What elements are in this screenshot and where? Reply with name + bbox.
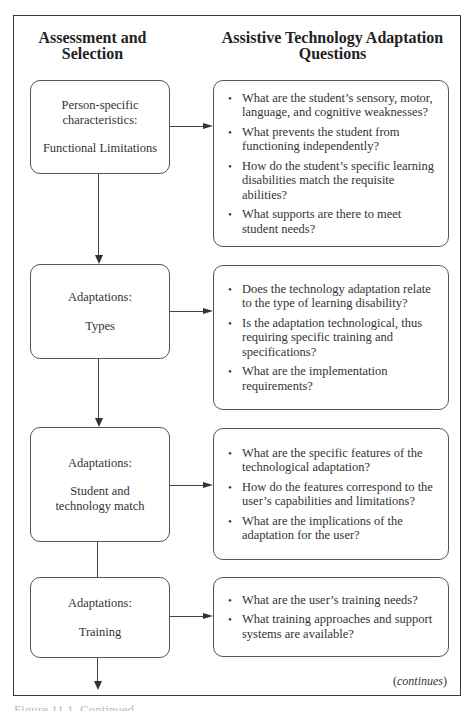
question-item: What are the implementation requirements… [228, 364, 440, 393]
connector-line [170, 485, 204, 486]
question-item: What are the user’s training needs? [228, 593, 440, 608]
connector-line [97, 542, 98, 577]
step-label-bottom: Types [85, 319, 115, 334]
arrow-right-icon [203, 123, 213, 129]
step-box-student-technology-match: Adaptations: Student and technology matc… [30, 427, 170, 542]
step-label-top: Adaptations: [68, 290, 132, 305]
question-item: Does the technology adaptation relate to… [228, 282, 440, 311]
question-item: How do the features correspond to the us… [228, 480, 440, 509]
step-label-bottom: Functional Limitations [43, 141, 157, 156]
connector-line [170, 616, 204, 617]
step-label-bottom: Training [79, 625, 122, 640]
question-item: What training approaches and support sys… [228, 612, 440, 641]
arrow-right-icon [203, 308, 213, 314]
question-item: How do the student’s specific learning d… [228, 159, 440, 203]
arrow-right-icon [203, 482, 213, 488]
step-label-top: Adaptations: [68, 596, 132, 611]
connector-line [97, 658, 98, 683]
step-label-top: Person-specific characteristics: [50, 98, 150, 127]
column-header-questions: Assistive Technology Adaptation Question… [210, 30, 455, 62]
step-box-functional-limitations: Person-specific characteristics: Functio… [30, 80, 170, 174]
step-box-types: Adaptations: Types [30, 264, 170, 359]
step-label-bottom: Student and technology match [55, 484, 145, 513]
connector-line [170, 311, 204, 312]
arrow-down-icon [95, 418, 103, 427]
arrow-down-icon [94, 681, 102, 690]
connector-line [98, 359, 99, 419]
step-label-top: Adaptations: [68, 456, 132, 471]
question-item: What supports are there to meet student … [228, 207, 440, 236]
questions-box-training: What are the user’s training needs? What… [213, 577, 449, 657]
question-item: Is the adaptation technological, thus re… [228, 316, 440, 360]
connector-line [170, 126, 204, 127]
connector-line [98, 174, 99, 256]
question-item: What are the student’s sensory, motor, l… [228, 91, 440, 120]
question-item: What are the implications of the adaptat… [228, 514, 440, 543]
step-box-training: Adaptations: Training [30, 577, 170, 658]
question-item: What are the specific features of the te… [228, 446, 440, 475]
arrow-down-icon [95, 255, 103, 264]
continues-note: (continues) [393, 674, 447, 689]
questions-box-student-technology-match: What are the specific features of the te… [213, 428, 449, 560]
column-header-assessment: Assessment and Selection [20, 30, 165, 62]
questions-box-functional-limitations: What are the student’s sensory, motor, l… [213, 80, 449, 247]
questions-box-types: Does the technology adaptation relate to… [213, 265, 449, 410]
figure-caption-partial: Figure 11.1. Continued [14, 703, 134, 711]
question-item: What prevents the student from functioni… [228, 125, 440, 154]
arrow-right-icon [203, 613, 213, 619]
